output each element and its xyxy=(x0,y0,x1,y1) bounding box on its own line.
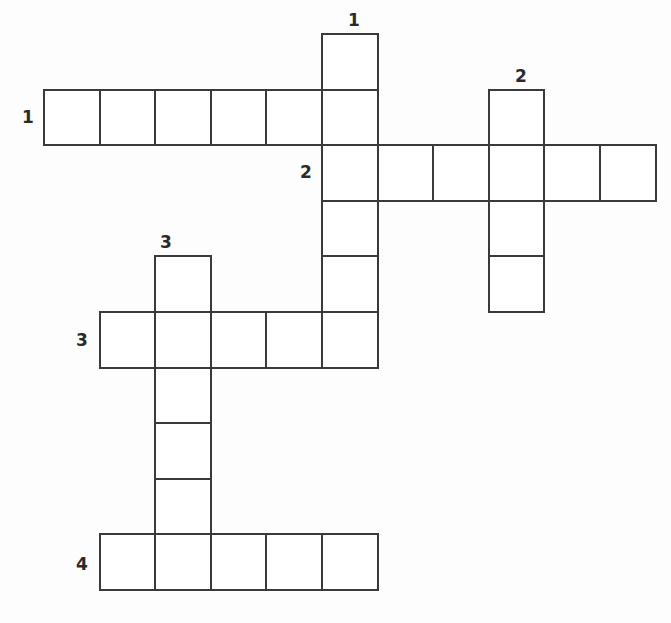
crossword-cell-r2-c9[interactable] xyxy=(543,144,601,202)
clue-number-1-across: 1 xyxy=(22,109,34,126)
crossword-cell-r3-c8[interactable] xyxy=(488,200,545,257)
crossword-cell-r9-c4[interactable] xyxy=(265,533,323,591)
crossword-cell-r2-c10[interactable] xyxy=(599,144,657,202)
crossword-cell-r5-c1[interactable] xyxy=(99,311,156,369)
crossword-cell-r1-c4[interactable] xyxy=(265,89,323,146)
crossword-cell-r4-c8[interactable] xyxy=(488,255,545,313)
crossword-cell-r5-c2[interactable] xyxy=(154,311,212,369)
crossword-cell-r5-c3[interactable] xyxy=(210,311,267,369)
crossword-cell-r1-c0[interactable] xyxy=(43,89,101,146)
crossword-cell-r3-c5[interactable] xyxy=(321,200,379,257)
crossword-cell-r1-c2[interactable] xyxy=(154,89,212,146)
clue-number-2-across: 2 xyxy=(300,164,312,181)
cropped-title-fragment xyxy=(0,0,671,4)
crossword-cell-r2-c7[interactable] xyxy=(432,144,490,202)
crossword-cell-r9-c3[interactable] xyxy=(210,533,267,591)
crossword-cell-r1-c1[interactable] xyxy=(99,89,156,146)
clue-number-3-down: 3 xyxy=(160,234,172,251)
crossword-cell-r9-c2[interactable] xyxy=(154,533,212,591)
crossword-cell-r9-c1[interactable] xyxy=(99,533,156,591)
crossword-cell-r2-c8[interactable] xyxy=(488,144,545,202)
crossword-cell-r6-c2[interactable] xyxy=(154,367,212,424)
clue-number-3-across: 3 xyxy=(76,332,88,349)
crossword-cell-r9-c5[interactable] xyxy=(321,533,379,591)
crossword-cell-r2-c6[interactable] xyxy=(377,144,434,202)
crossword-cell-r2-c5[interactable] xyxy=(321,144,379,202)
crossword-cell-r4-c2[interactable] xyxy=(154,255,212,313)
crossword-cell-r5-c5[interactable] xyxy=(321,311,379,369)
crossword-cell-r0-c5[interactable] xyxy=(321,33,379,91)
crossword-cell-r1-c8[interactable] xyxy=(488,89,545,146)
clue-number-4-across: 4 xyxy=(76,556,88,573)
crossword-cell-r4-c5[interactable] xyxy=(321,255,379,313)
crossword-page: 1122334 xyxy=(0,0,671,623)
clue-number-1-down: 1 xyxy=(348,12,360,29)
crossword-cell-r1-c5[interactable] xyxy=(321,89,379,146)
crossword-cell-r1-c3[interactable] xyxy=(210,89,267,146)
clue-number-2-down: 2 xyxy=(515,68,527,85)
crossword-cell-r5-c4[interactable] xyxy=(265,311,323,369)
crossword-cell-r7-c2[interactable] xyxy=(154,422,212,480)
crossword-cell-r8-c2[interactable] xyxy=(154,478,212,535)
